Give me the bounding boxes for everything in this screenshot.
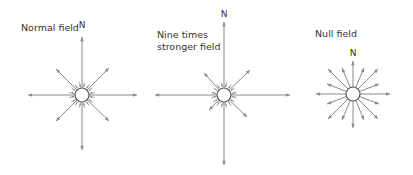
compass-center-circle: [217, 88, 231, 102]
null-field-north-label: N: [350, 48, 357, 58]
compass-center-circle: [346, 87, 360, 101]
normal-field-label-text: Normal field: [21, 22, 79, 33]
compass-center-circle: [75, 88, 89, 102]
null-field-label-text: Null field: [315, 28, 357, 39]
nine-times-label-line-2: stronger field: [157, 41, 221, 53]
nine-times-field-label: Nine times stronger field: [157, 29, 221, 53]
normal-field-label: Normal field: [21, 22, 79, 34]
magnetic-field-diagram: Normal field N Nine times stronger field…: [0, 0, 413, 175]
nine-times-north-label: N: [221, 9, 228, 19]
null-field-label: Null field: [315, 28, 357, 40]
nine-times-label-line-1: Nine times: [157, 29, 221, 41]
normal-field-north-label: N: [79, 20, 86, 30]
